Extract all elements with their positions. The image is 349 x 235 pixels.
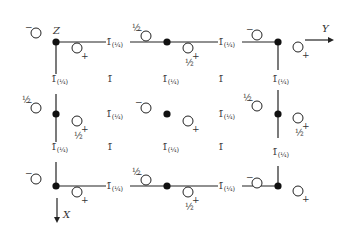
atom-position: −½ <box>243 93 262 111</box>
lattice-point-dot-icon <box>163 110 170 117</box>
atom-position: −½ <box>132 23 151 41</box>
plus-sign: + <box>81 51 89 61</box>
lattice-point-dot-icon <box>52 38 59 45</box>
minus-sign: − <box>135 97 143 107</box>
half-fraction: ½ <box>185 202 194 212</box>
lattice-point-dot-icon <box>274 110 281 117</box>
inversion-center-label: 1̄ <box>107 142 113 152</box>
half-fraction: ½ <box>132 167 141 177</box>
atom-position: +½ <box>293 113 310 138</box>
inversion-center-label: 1̄(¼) <box>162 74 180 86</box>
plus-sign: + <box>302 50 310 60</box>
atom-position: − <box>246 24 262 40</box>
atom-position: − <box>25 168 41 184</box>
inversion-center-label: 1̄(¼) <box>272 147 290 159</box>
atom-position: +½ <box>183 43 200 68</box>
atom-position: − <box>25 22 41 38</box>
lattice-point-dot-icon <box>52 110 59 117</box>
atom-position: + <box>72 43 89 61</box>
half-fraction: ½ <box>295 128 304 138</box>
x-arrowhead-icon <box>54 217 60 223</box>
half-fraction: ½ <box>132 23 141 33</box>
lattice-point-dot-icon <box>274 38 281 45</box>
inversion-center-label: 1̄ <box>218 74 224 84</box>
minus-sign: − <box>246 172 254 182</box>
inversion-center-label: 1̄(¼) <box>51 74 69 86</box>
y-arrowhead-icon <box>328 37 334 43</box>
inversion-center-label: 1̄(¼) <box>272 74 290 86</box>
y-axis-label: Y <box>322 23 330 34</box>
plus-sign: + <box>192 124 200 134</box>
inversion-center-label: 1̄(¼) <box>51 142 69 154</box>
lattice-point-dot-icon <box>52 182 59 189</box>
lattice-points <box>52 38 281 189</box>
inversion-center-label: 1̄(¼) <box>218 109 236 121</box>
minus-sign: − <box>25 168 33 178</box>
inversion-center-label: 1̄(¼) <box>218 37 236 49</box>
half-fraction: ½ <box>22 95 31 105</box>
plus-sign: + <box>81 195 89 205</box>
atom-position: +½ <box>183 187 200 212</box>
inversion-center-label: 1̄ <box>107 74 113 84</box>
atom-position: −½ <box>132 167 151 185</box>
inversion-center-label: 1̄(¼) <box>106 37 124 49</box>
lattice-point-dot-icon <box>274 182 281 189</box>
atom-position: +½ <box>72 116 89 141</box>
inversion-center-label: 1̄(¼) <box>218 181 236 193</box>
symmetry-diagram: Z Y X −+−½+½−+−½+½−+−½+½−+−½+½−+ 1̄(¼)1̄… <box>0 0 349 235</box>
minus-sign: − <box>246 24 254 34</box>
atom-position: −½ <box>22 95 41 113</box>
half-fraction: ½ <box>243 93 252 103</box>
inversion-center-label: 1̄(¼) <box>106 109 124 121</box>
inversion-center-label: 1̄ <box>218 142 224 152</box>
atom-position: + <box>293 186 310 204</box>
z-axis-label: Z <box>52 25 61 36</box>
atom-position: + <box>183 116 200 134</box>
half-fraction: ½ <box>74 131 83 141</box>
atom-position: + <box>72 187 89 205</box>
atom-position: + <box>293 42 310 60</box>
half-fraction: ½ <box>185 58 194 68</box>
inversion-center-label: 1̄(¼) <box>162 142 180 154</box>
x-axis-label: X <box>62 209 71 220</box>
inversion-center-label: 1̄(¼) <box>106 181 124 193</box>
plus-sign: + <box>302 194 310 204</box>
minus-sign: − <box>25 22 33 32</box>
lattice-point-dot-icon <box>163 38 170 45</box>
atom-position: − <box>135 97 151 113</box>
lattice-point-dot-icon <box>163 182 170 189</box>
